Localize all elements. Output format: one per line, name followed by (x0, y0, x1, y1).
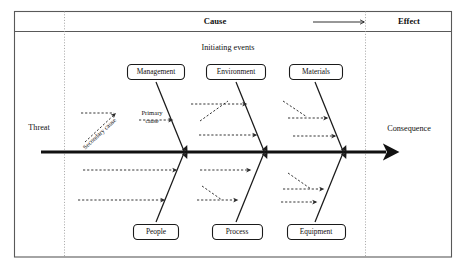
fishbone-diagram: Cause Effect Initiating events Threat Co… (0, 0, 464, 269)
primary-cause-line1: Primary (141, 109, 163, 116)
header-effect-label: Effect (398, 16, 420, 26)
category-label-management: Management (137, 67, 177, 76)
category-label-equipment: Equipment (300, 227, 333, 236)
page-title: Initiating events (202, 43, 255, 52)
spine-start-label: Threat (28, 123, 50, 132)
category-label-people: People (146, 227, 167, 236)
header-cause-label: Cause (204, 16, 227, 26)
primary-cause-line2: cause (145, 118, 158, 124)
category-label-environment: Environment (217, 67, 257, 76)
spine-end-label: Consequence (387, 124, 431, 133)
category-label-materials: Materials (302, 67, 330, 76)
category-label-process: Process (226, 227, 249, 236)
